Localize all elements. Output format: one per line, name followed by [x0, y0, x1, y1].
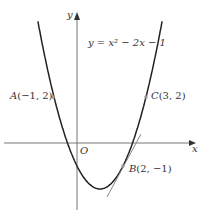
point-c [144, 95, 148, 99]
parabola-diagram: y x O y = x² − 2x − 1 A(−1, 2) B(2, −1) … [0, 0, 199, 213]
equation-label: y = x² − 2x − 1 [88, 37, 166, 48]
point-b [121, 164, 125, 168]
origin-label: O [80, 145, 88, 156]
diagram-canvas [0, 0, 199, 213]
x-axis-label: x [192, 143, 198, 154]
point-b-label: B(2, −1) [129, 163, 172, 174]
y-axis-arrow-icon [74, 12, 80, 20]
point-c-label: C(3, 2) [151, 90, 186, 101]
point-a-label: A(−1, 2) [10, 90, 53, 101]
y-axis-label: y [67, 9, 73, 20]
